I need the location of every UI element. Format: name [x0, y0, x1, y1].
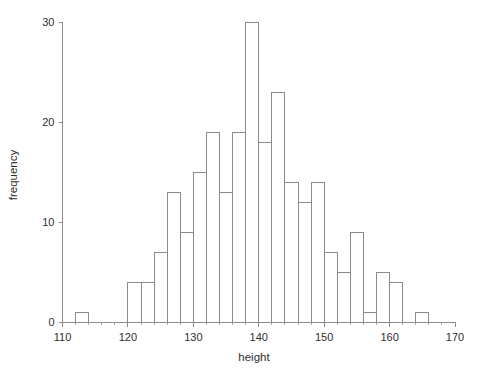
x-axis-tick-label: 170	[446, 331, 464, 343]
x-axis-tick-label: 150	[315, 331, 333, 343]
y-axis-tick-label: 30	[42, 16, 54, 28]
x-axis-tick-label: 120	[119, 331, 137, 343]
x-axis-tick-label: 130	[184, 331, 202, 343]
y-axis-tick-label: 10	[42, 216, 54, 228]
y-axis-tick-label: 0	[48, 316, 54, 328]
x-axis-tick-label: 110	[54, 331, 72, 343]
x-axis-title: height	[238, 351, 270, 363]
y-axis-title: frequency	[7, 150, 19, 201]
x-axis-tick-label: 160	[380, 331, 398, 343]
y-axis-tick-label: 20	[42, 116, 54, 128]
x-axis-tick-label: 140	[250, 331, 268, 343]
chart-background	[0, 0, 487, 383]
histogram-chart: 0102030110120130140150160170 height freq…	[0, 0, 487, 383]
